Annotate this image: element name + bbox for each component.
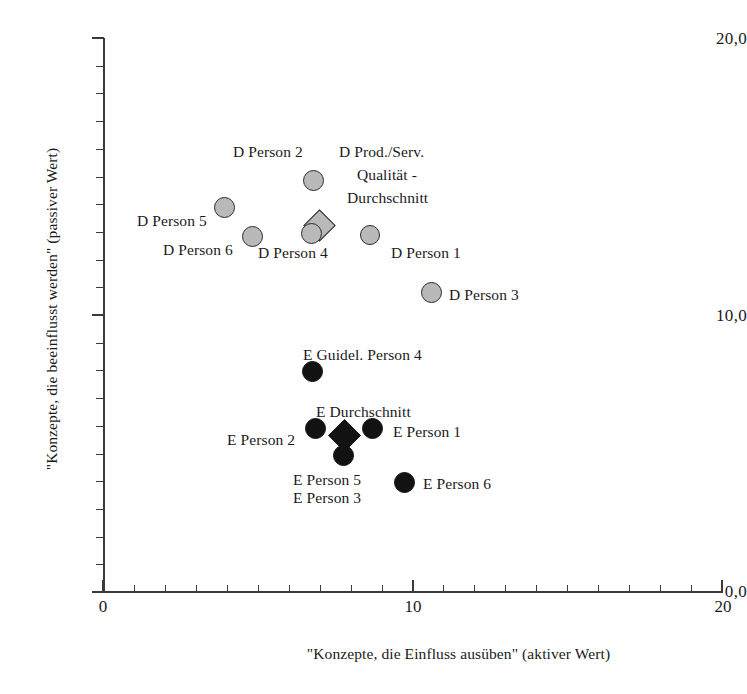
marker-e-person-6[interactable] <box>394 472 415 493</box>
marker-e-person-1[interactable] <box>362 418 383 439</box>
label-e-durchschnitt: E Durchschnitt <box>316 402 411 421</box>
label-d-person-6: D Person 6 <box>163 240 233 259</box>
label-e-person-6: E Person 6 <box>423 474 491 493</box>
marker-e-person-5-and-3[interactable] <box>333 445 354 466</box>
scatter-chart: 20,0 10,0 0,0 0 10 20 "Konzepte, die Ein… <box>0 0 747 694</box>
marker-d-person-4[interactable] <box>301 223 322 244</box>
label-d-person-5: D Person 5 <box>137 211 207 230</box>
marker-d-person-2[interactable] <box>303 170 324 191</box>
label-d-prod-serv-line1: D Prod./Serv. <box>339 142 424 161</box>
label-d-person-3: D Person 3 <box>449 285 519 304</box>
marker-e-person-2[interactable] <box>305 418 326 439</box>
marker-d-person-5[interactable] <box>214 197 235 218</box>
marker-d-person-3[interactable] <box>421 282 442 303</box>
label-d-prod-serv-line3: Durchschnitt <box>347 188 428 207</box>
label-e-person-5: E Person 5 <box>293 470 361 489</box>
plot-area: D Person 2 D Prod./Serv. Qualität - Durc… <box>0 0 747 694</box>
label-d-prod-serv-line2: Qualität - <box>357 165 417 184</box>
marker-d-person-1[interactable] <box>360 225 380 245</box>
label-e-person-2: E Person 2 <box>227 430 295 449</box>
label-d-person-1: D Person 1 <box>391 243 461 262</box>
label-e-person-3: E Person 3 <box>293 488 361 507</box>
label-e-guidel-person-4: E Guidel. Person 4 <box>303 345 422 364</box>
label-d-person-4: D Person 4 <box>258 243 328 262</box>
label-e-person-1: E Person 1 <box>393 422 461 441</box>
label-d-person-2: D Person 2 <box>233 142 303 161</box>
marker-e-guidel-person-4[interactable] <box>302 361 323 382</box>
